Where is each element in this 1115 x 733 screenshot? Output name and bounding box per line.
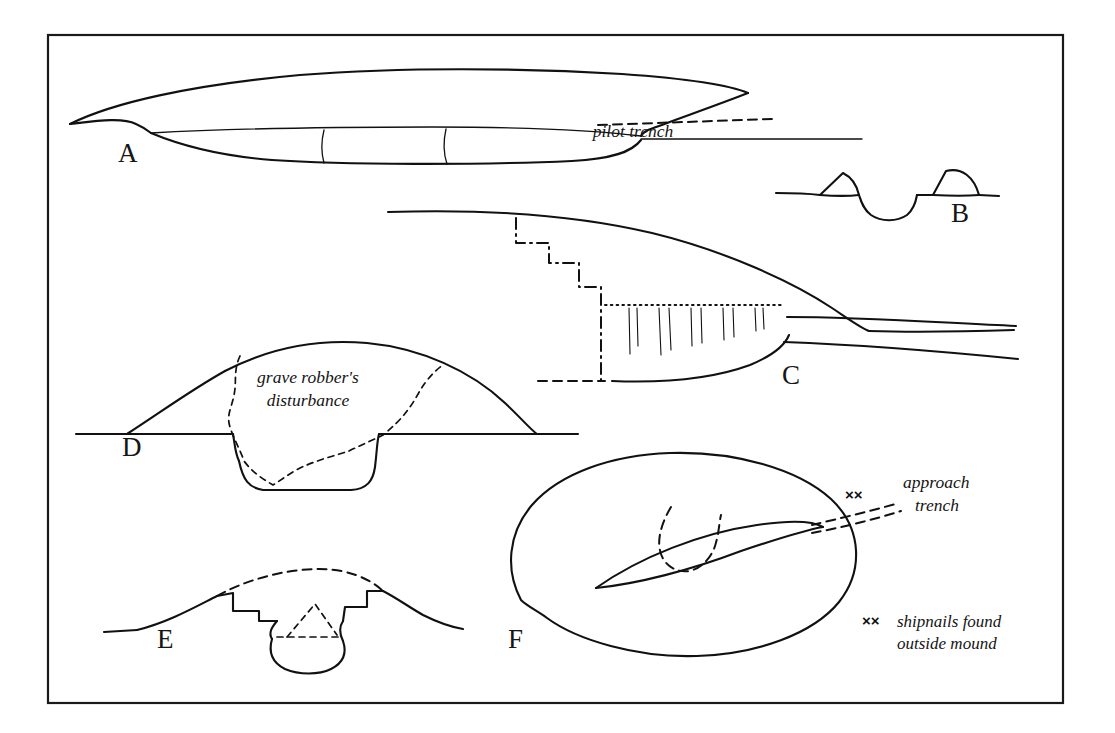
grave-robbers-label-line2: disturbance — [267, 390, 350, 410]
panel-b-hollow — [859, 195, 917, 220]
panel-c-ground-upper-right — [869, 330, 1014, 332]
panel-e-ground-left — [104, 630, 137, 632]
panel-d-letter: D — [122, 432, 142, 462]
legend-line-1: shipnails found — [897, 612, 1002, 631]
panel-c-hatching — [629, 308, 764, 355]
figure-root: A pilot trench B — [0, 0, 1115, 733]
panel-e-cut-right — [340, 621, 343, 641]
panel-a-hull-bottom — [151, 133, 641, 164]
panel-a-bulkhead-1 — [322, 130, 324, 163]
panel-a-letter: A — [118, 138, 138, 168]
shipnails-plan-marks: ×× — [845, 486, 863, 503]
panel-d-mound-left-slope — [127, 371, 225, 434]
panel-e-cut-left — [270, 621, 277, 639]
panel-e-step-left — [217, 593, 277, 621]
panel-e-chamber-bowl — [271, 639, 345, 674]
panel-c-mound-top — [388, 211, 869, 331]
panel-c-ground-lower-right — [784, 342, 1018, 359]
panel-b-letter: B — [951, 198, 969, 228]
legend-shipnails: ×× shipnails found outside mound — [862, 612, 1002, 653]
panel-e-reconstructed-profile — [217, 569, 383, 596]
panel-b-hump-right — [933, 170, 979, 195]
panel-d-pit-right-wall — [375, 434, 379, 467]
panel-e-slope-right — [383, 591, 463, 629]
panel-c-excavation-limit — [516, 218, 601, 381]
panel-f-approach-trench-upper — [812, 503, 899, 525]
panel-d: D grave robber's disturbance — [76, 342, 578, 490]
panel-a-bulkhead-2 — [444, 129, 447, 164]
panel-c-letter: C — [782, 360, 800, 390]
panel-a-mound-left-kink — [70, 120, 151, 133]
figure-border — [48, 35, 1063, 703]
legend-x-marks: ×× — [862, 612, 880, 629]
panel-e-step-right — [343, 591, 383, 621]
panel-a-hull-sheer — [151, 127, 641, 136]
panel-c-ground-mid-right — [787, 317, 1016, 326]
panel-b-ground-right — [979, 195, 999, 196]
panel-b-hump-left — [820, 173, 859, 195]
panel-f-letter: F — [508, 624, 523, 654]
panel-b-ground-left — [776, 193, 820, 195]
panel-e-letter: E — [157, 624, 174, 654]
panel-f-ship-impression-top — [596, 522, 823, 588]
panel-a-mound-outline — [70, 69, 748, 124]
pilot-trench-label: pilot trench — [591, 121, 674, 141]
grave-robbers-label-line1: grave robber's — [257, 367, 359, 387]
panel-b-ground-right-inner — [933, 195, 979, 196]
mound-sections-figure: A pilot trench B — [0, 0, 1115, 733]
panel-c-trench-base — [612, 335, 789, 381]
panel-e-chamber-roof-dotted — [287, 604, 337, 637]
approach-trench-label-line1: approach — [903, 472, 970, 492]
panel-b: B — [776, 170, 999, 228]
panel-f-mound-oval — [511, 453, 856, 656]
panel-a: A pilot trench — [70, 69, 862, 168]
panel-c: C — [388, 211, 1018, 390]
approach-trench-label-line2: trench — [915, 495, 959, 515]
panel-e: E — [104, 569, 463, 674]
panel-b-ground-left-inner — [820, 195, 859, 196]
panel-e-slope-left — [137, 596, 217, 630]
panel-d-mound-arc — [225, 342, 537, 434]
legend-line-2: outside mound — [897, 634, 997, 653]
